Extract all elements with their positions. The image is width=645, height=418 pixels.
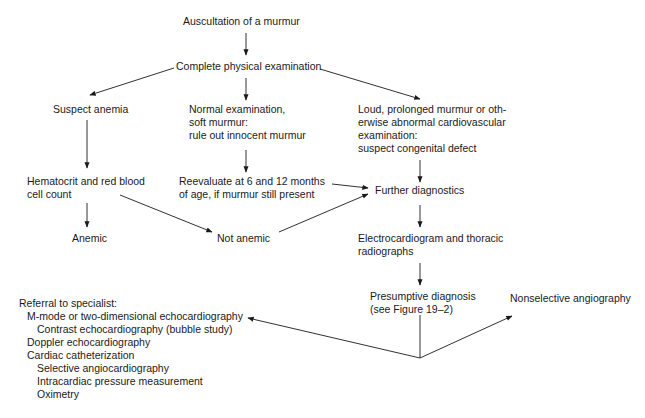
node-complete-exam: Complete physical examination bbox=[176, 60, 321, 73]
referral-subitem: Intracardiac pressure measurement bbox=[19, 375, 243, 388]
node-text: Nonselective angiography bbox=[510, 292, 631, 305]
referral-subitem: Selective angiocardiography bbox=[19, 362, 243, 375]
node-text: Complete physical examination bbox=[176, 60, 321, 73]
node-text: Electrocardiogram and thoracic bbox=[358, 232, 503, 245]
node-text: (see Figure 19–2) bbox=[370, 303, 476, 316]
node-text: Suspect anemia bbox=[53, 103, 128, 116]
node-text: Further diagnostics bbox=[375, 184, 464, 197]
node-text: cell count bbox=[27, 188, 145, 201]
node-text: of age, if murmur still present bbox=[179, 188, 325, 201]
referral-subitem: Oximetry bbox=[19, 388, 243, 401]
referral-title: Referral to specialist: bbox=[19, 297, 243, 310]
node-text: Auscultation of a murmur bbox=[183, 15, 300, 28]
edge-reevaluate-to-further bbox=[332, 184, 368, 188]
edge-presumptive-to-nonselective bbox=[420, 316, 512, 358]
edge-presumptive-to-referral bbox=[248, 318, 420, 358]
node-text: Anemic bbox=[72, 232, 107, 245]
node-text: Loud, prolonged murmur or oth- bbox=[358, 103, 506, 116]
node-text: erwise abnormal cardiovascular bbox=[358, 116, 506, 129]
node-anemic: Anemic bbox=[72, 232, 107, 245]
node-text: Not anemic bbox=[217, 232, 270, 245]
node-auscultation: Auscultation of a murmur bbox=[183, 15, 300, 28]
node-suspect-anemia: Suspect anemia bbox=[53, 103, 128, 116]
node-text: Normal examination, bbox=[189, 103, 306, 116]
edge-exam-to-loud bbox=[320, 69, 420, 99]
node-nonselective-angiography: Nonselective angiography bbox=[510, 292, 631, 305]
node-text: radiographs bbox=[358, 245, 503, 258]
node-referral: Referral to specialist: M-mode or two-di… bbox=[19, 297, 243, 401]
node-presumptive-diagnosis: Presumptive diagnosis (see Figure 19–2) bbox=[370, 290, 476, 316]
node-loud-murmur: Loud, prolonged murmur or oth- erwise ab… bbox=[358, 103, 506, 155]
node-normal-exam: Normal examination, soft murmur: rule ou… bbox=[189, 103, 306, 142]
node-further-diagnostics: Further diagnostics bbox=[375, 184, 464, 197]
node-not-anemic: Not anemic bbox=[217, 232, 270, 245]
node-text: soft murmur: bbox=[189, 116, 306, 129]
node-ecg: Electrocardiogram and thoracic radiograp… bbox=[358, 232, 503, 258]
edge-exam-to-suspect-anemia bbox=[90, 68, 174, 95]
node-reevaluate: Reevaluate at 6 and 12 months of age, if… bbox=[179, 175, 325, 201]
node-hematocrit: Hematocrit and red blood cell count bbox=[27, 175, 145, 201]
node-text: Reevaluate at 6 and 12 months bbox=[179, 175, 325, 188]
node-text: examination: bbox=[358, 129, 506, 142]
node-text: Hematocrit and red blood bbox=[27, 175, 145, 188]
referral-subitem: Contrast echocardiography (bubble study) bbox=[19, 323, 243, 336]
referral-item: M-mode or two-dimensional echocardiograp… bbox=[19, 310, 243, 323]
referral-item: Doppler echocardiography bbox=[19, 336, 243, 349]
node-text: Presumptive diagnosis bbox=[370, 290, 476, 303]
node-text: rule out innocent murmur bbox=[189, 129, 306, 142]
node-text: suspect congenital defect bbox=[358, 142, 506, 155]
referral-item: Cardiac catheterization bbox=[19, 349, 243, 362]
